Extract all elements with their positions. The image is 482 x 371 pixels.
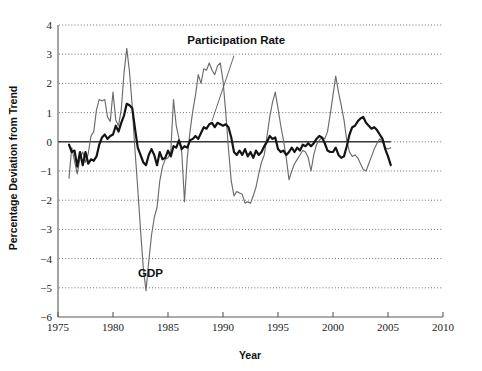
y-tick-label--6: −6 — [40, 311, 52, 323]
x-tick-label-2000: 2000 — [322, 321, 345, 333]
gdp-label: GDP — [138, 267, 163, 279]
x-tick-label-1995: 1995 — [267, 321, 290, 333]
y-axis-title: Percentage Deviation from Trend — [7, 86, 19, 251]
y-tick-label--1: −1 — [40, 165, 52, 177]
x-tick-label-2010: 2010 — [432, 321, 455, 333]
y-tick-label-0: 0 — [47, 136, 53, 148]
chart-background — [0, 0, 482, 371]
y-tick-label-3: 3 — [47, 48, 53, 60]
x-tick-label-1990: 1990 — [212, 321, 235, 333]
deviation-from-trend-chart: 1975198019851990199520002005201043210−1−… — [0, 0, 482, 371]
y-tick-label-4: 4 — [47, 19, 53, 31]
x-tick-label-2005: 2005 — [377, 321, 400, 333]
y-tick-label--3: −3 — [40, 223, 52, 235]
y-tick-label-2: 2 — [47, 77, 53, 89]
chart-container: 1975198019851990199520002005201043210−1−… — [0, 0, 482, 371]
x-axis-title: Year — [239, 349, 261, 361]
x-tick-label-1980: 1980 — [102, 321, 125, 333]
y-tick-label--4: −4 — [40, 253, 52, 265]
x-tick-label-1985: 1985 — [157, 321, 180, 333]
y-tick-label--2: −2 — [40, 194, 52, 206]
y-tick-label-1: 1 — [47, 107, 53, 119]
participation-rate-label: Participation Rate — [187, 34, 285, 46]
y-tick-label--5: −5 — [40, 282, 52, 294]
